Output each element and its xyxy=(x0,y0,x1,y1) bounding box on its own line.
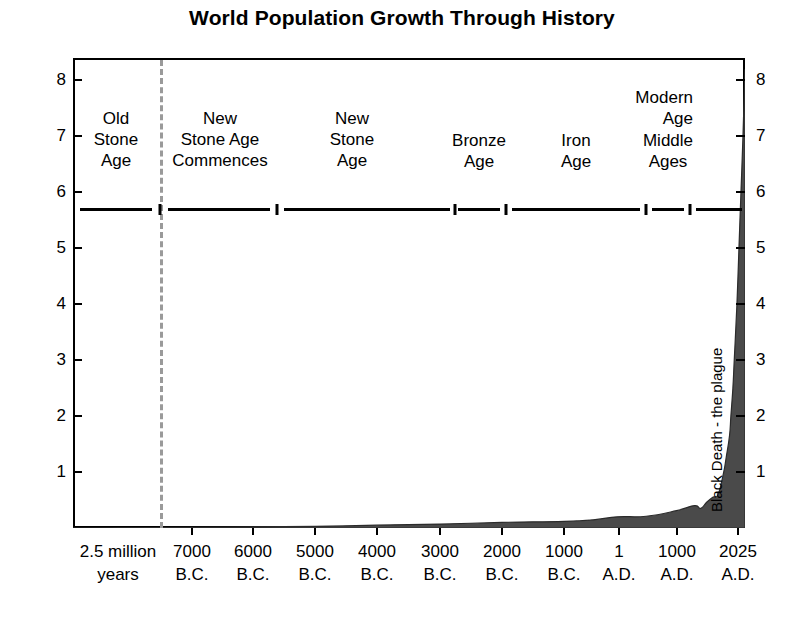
y-tick-mark-right-8 xyxy=(736,79,745,81)
era-label-line-1: Age xyxy=(583,108,693,129)
era-label-0: OldStoneAge xyxy=(94,108,138,171)
y-tick-label-right-1: 1 xyxy=(756,462,782,482)
era-label-3: BronzeAge xyxy=(452,130,506,172)
y-tick-label-left-2: 2 xyxy=(40,406,66,426)
y-tick-mark-right-2 xyxy=(736,415,745,417)
black-death-annotation: Black Death - the plague xyxy=(708,348,725,512)
x-tick-mark-2 xyxy=(252,528,254,535)
era-label-line-0: New xyxy=(330,108,374,129)
era-label-2: NewStoneAge xyxy=(330,108,374,171)
y-tick-label-left-7: 7 xyxy=(40,126,66,146)
y-tick-mark-right-6 xyxy=(736,191,745,193)
y-tick-label-right-5: 5 xyxy=(756,238,782,258)
y-tick-label-right-6: 6 xyxy=(756,182,782,202)
y-tick-mark-right-5 xyxy=(736,247,745,249)
era-bar-segment-5 xyxy=(652,208,684,211)
era-label-line-1: Middle xyxy=(643,130,693,151)
y-tick-mark-left-1 xyxy=(73,471,82,473)
population-chart: World Population Growth Through History … xyxy=(0,0,804,618)
era-divider-4 xyxy=(645,204,648,215)
y-tick-mark-left-7 xyxy=(73,135,82,137)
y-tick-mark-right-4 xyxy=(736,303,745,305)
era-label-line-2: Age xyxy=(94,150,138,171)
era-bar-segment-3 xyxy=(458,208,500,211)
old-stone-age-dashed-divider xyxy=(160,60,163,528)
era-label-line-2: Age xyxy=(452,151,506,172)
y-tick-mark-left-8 xyxy=(73,79,82,81)
x-tick-mark-7 xyxy=(563,528,565,535)
era-label-line-0: Modern xyxy=(583,87,693,108)
y-tick-label-right-3: 3 xyxy=(756,350,782,370)
y-tick-label-left-1: 1 xyxy=(40,462,66,482)
y-tick-mark-right-7 xyxy=(736,135,745,137)
y-tick-label-left-5: 5 xyxy=(40,238,66,258)
era-label-5: MiddleAges xyxy=(643,130,693,172)
y-tick-label-right-7: 7 xyxy=(756,126,782,146)
y-tick-mark-left-5 xyxy=(73,247,82,249)
era-label-line-1: Iron xyxy=(561,130,591,151)
era-label-line-1: Bronze xyxy=(452,130,506,151)
y-tick-mark-right-1 xyxy=(736,471,745,473)
era-label-line-2: Commences xyxy=(172,150,267,171)
era-bar-segment-1 xyxy=(168,208,270,211)
y-tick-mark-right-3 xyxy=(736,359,745,361)
x-tick-label-line1: 2025 xyxy=(719,542,757,561)
era-bar-segment-6 xyxy=(696,208,742,211)
era-divider-2 xyxy=(454,204,457,215)
era-label-line-0: New xyxy=(172,108,267,129)
x-tick-mark-4 xyxy=(376,528,378,535)
era-divider-0 xyxy=(159,204,162,215)
era-label-line-2: Age xyxy=(561,151,591,172)
era-bar-segment-4 xyxy=(512,208,640,211)
era-label-line-0: Old xyxy=(94,108,138,129)
x-tick-mark-9 xyxy=(676,528,678,535)
y-tick-label-right-2: 2 xyxy=(756,406,782,426)
x-tick-label-10: 2025A.D. xyxy=(678,540,798,586)
x-tick-mark-10 xyxy=(737,528,739,535)
y-tick-label-left-6: 6 xyxy=(40,182,66,202)
era-label-line-1: Stone Age xyxy=(172,129,267,150)
x-tick-mark-5 xyxy=(439,528,441,535)
era-label-1: NewStone AgeCommences xyxy=(172,108,267,171)
chart-title: World Population Growth Through History xyxy=(0,6,804,30)
era-label-line-2: Ages xyxy=(643,151,693,172)
y-tick-mark-left-4 xyxy=(73,303,82,305)
x-tick-mark-6 xyxy=(501,528,503,535)
era-label-line-1: Stone xyxy=(94,129,138,150)
y-tick-mark-left-3 xyxy=(73,359,82,361)
y-tick-label-right-4: 4 xyxy=(756,294,782,314)
x-tick-label-line2: A.D. xyxy=(678,563,798,586)
era-label-4: IronAge xyxy=(561,130,591,172)
era-bar-segment-2 xyxy=(284,208,450,211)
x-tick-mark-3 xyxy=(314,528,316,535)
era-bar-segment-0 xyxy=(80,208,152,211)
y-tick-label-left-3: 3 xyxy=(40,350,66,370)
era-divider-3 xyxy=(505,204,508,215)
era-divider-1 xyxy=(276,204,279,215)
era-divider-5 xyxy=(689,204,692,215)
y-tick-mark-left-2 xyxy=(73,415,82,417)
y-tick-mark-left-6 xyxy=(73,191,82,193)
y-tick-label-right-8: 8 xyxy=(756,70,782,90)
era-label-line-1: Stone xyxy=(330,129,374,150)
x-tick-mark-8 xyxy=(618,528,620,535)
y-tick-label-left-4: 4 xyxy=(40,294,66,314)
y-tick-label-left-8: 8 xyxy=(40,70,66,90)
era-label-6: ModernAge xyxy=(583,87,693,129)
x-tick-mark-1 xyxy=(191,528,193,535)
era-label-line-2: Age xyxy=(330,150,374,171)
